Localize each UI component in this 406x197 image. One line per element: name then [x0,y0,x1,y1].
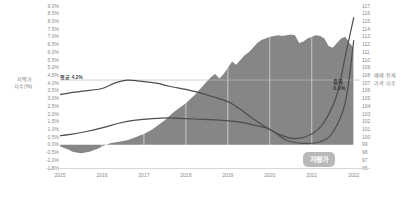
left-axis-tick: 0.0% [48,142,59,147]
left-axis-tick: 7.0% [48,34,59,39]
x-axis-tick: 2019 [222,172,233,179]
left-axis-title: 저평가 지수(%) [2,76,32,90]
undervalued-badge: 저평가 [303,152,335,167]
left-axis-tick: 0.5% [48,135,59,140]
right-axis-tick: 107 [362,81,370,86]
left-axis-tick: 8.0% [48,19,59,24]
left-axis-tick: 4.5% [48,73,59,78]
right-axis-tick: 102 [362,119,370,124]
right-axis-tick: 101 [362,127,370,132]
left-axis-tick: 5.0% [48,65,59,70]
left-axis-tick: 6.5% [48,42,59,47]
x-axis-tick: 2016 [96,172,107,179]
left-axis-tick: 1.0% [48,127,59,132]
x-axis-tick: 2018 [180,172,191,179]
average-line-label: 평균 4.2% [60,74,83,80]
plot-area [60,6,360,168]
right-axis-tick: 115 [362,19,370,24]
left-axis-tick: 6.0% [48,50,59,55]
x-axis-tick: 2017 [138,172,149,179]
left-axis-title-line1: 저평가 [2,76,32,83]
left-axis-tick: -1.0% [46,158,59,163]
x-axis-line [50,168,370,169]
right-axis-tick: 100 [362,135,370,140]
left-axis-tick: 1.5% [48,119,59,124]
plot-svg [60,6,360,168]
right-axis-tick: 108 [362,73,370,78]
x-axis-tick: 2021 [306,172,317,179]
left-axis-tick: 3.0% [48,96,59,101]
right-axis-tick: 111 [362,50,370,55]
right-axis-tick: 114 [362,27,370,32]
right-axis-tick: 106 [362,88,370,93]
left-axis-tick: -0.5% [46,150,59,155]
left-axis-tick: 7.5% [48,27,59,32]
right-axis-tick: 117 [362,4,370,9]
x-axis-ticks: 20152016201720182019202020212022 [50,172,380,184]
left-axis-tick: 2.5% [48,104,59,109]
chart-root: 저평가 지수(%) 매매·전세 가격·지수 9.0%8.5%8.0%7.5%7.… [0,0,406,197]
left-axis-title-line2: 지수(%) [2,83,32,90]
right-axis-tick: 99 [362,142,368,147]
right-axis-tick: 97 [362,158,368,163]
left-axis-tick: 9.0% [48,4,59,9]
left-axis-tick: 4.0% [48,81,59,86]
right-axis-tick: 110 [362,58,370,63]
left-axis-tick: 8.5% [48,11,59,16]
left-axis-tick: 3.5% [48,88,59,93]
right-axis-tick: 112 [362,42,370,47]
right-axis-tick: 105 [362,96,370,101]
left-axis-tick: 2.0% [48,112,59,117]
right-axis-tick: 98 [362,150,368,155]
x-axis-tick: 2015 [54,172,65,179]
peak-value-label-line2: 3.0% [333,85,345,91]
right-axis-tick: 103 [362,112,370,117]
right-axis-tick: 109 [362,65,370,70]
right-axis-tick: 116 [362,11,370,16]
x-axis-tick: 2022 [348,172,359,179]
peak-value-label: 중복 3.0% [333,79,345,92]
right-axis-tick: 104 [362,104,370,109]
x-axis-tick: 2020 [264,172,275,179]
right-axis-tick: 113 [362,34,370,39]
left-axis-tick: 5.5% [48,58,59,63]
